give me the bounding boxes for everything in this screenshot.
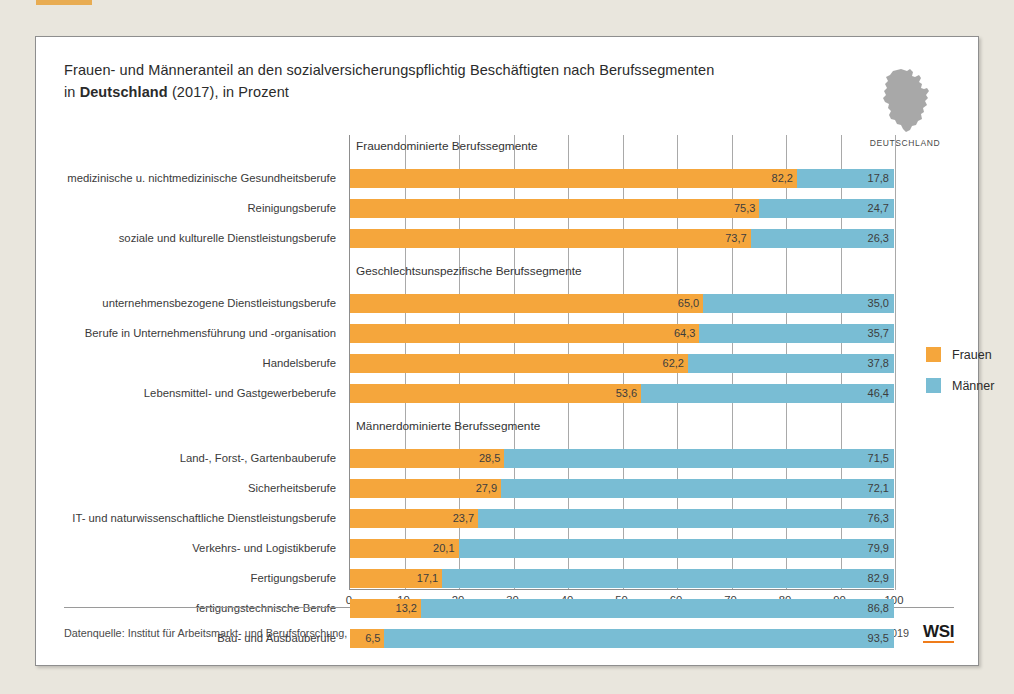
value-label-maenner: 71,5 (504, 449, 894, 468)
value-label-frauen: 23,7 (350, 509, 479, 528)
value-label-frauen: 13,2 (350, 599, 422, 618)
value-label-maenner: 76,3 (478, 509, 894, 528)
value-label-frauen: 6,5 (350, 629, 385, 648)
category-label: Handelsberufe (263, 357, 336, 370)
category-label: IT- und naturwissenschaftliche Dienstlei… (72, 512, 336, 525)
value-label-frauen: 17,1 (350, 569, 443, 588)
bar-row[interactable]: 17,182,9 (350, 569, 894, 588)
bar-row[interactable]: 73,726,3 (350, 229, 894, 248)
title-country: Deutschland (80, 84, 168, 100)
plot-wrapper: medizinische u. nichtmedizinische Gesund… (64, 135, 954, 590)
bar-row[interactable]: 28,571,5 (350, 449, 894, 468)
legend: Frauen Männer (926, 347, 1014, 409)
value-label-maenner: 35,7 (699, 324, 894, 343)
value-label-frauen: 64,3 (350, 324, 700, 343)
page-title: Frauen- und Männeranteil an den sozialve… (64, 59, 864, 104)
bar-row[interactable]: 75,324,7 (350, 199, 894, 218)
value-label-frauen: 62,2 (350, 354, 689, 373)
value-label-maenner: 79,9 (459, 539, 894, 558)
category-label: Land-, Forst-, Gartenbauberufe (180, 452, 336, 465)
value-label-maenner: 17,8 (797, 169, 894, 188)
chart-area: medizinische u. nichtmedizinische Gesund… (64, 135, 954, 595)
gridline (895, 135, 896, 590)
legend-swatch-maenner (926, 378, 941, 393)
category-labels-column: medizinische u. nichtmedizinische Gesund… (64, 135, 342, 590)
category-label: Sicherheitsberufe (248, 482, 336, 495)
value-label-maenner: 24,7 (759, 199, 894, 218)
bar-row[interactable]: 23,776,3 (350, 509, 894, 528)
title-line-2-prefix: in (64, 84, 80, 100)
header: Frauen- und Männeranteil an den sozialve… (64, 59, 954, 104)
bar-row[interactable]: 27,972,1 (350, 479, 894, 498)
value-label-maenner: 93,5 (384, 629, 894, 648)
category-label: Reinigungsberufe (247, 202, 336, 215)
value-label-maenner: 35,0 (703, 294, 894, 313)
legend-item-frauen[interactable]: Frauen (926, 347, 1014, 362)
group-header: Männerdominierte Berufssegmente (356, 419, 540, 433)
legend-swatch-frauen (926, 347, 941, 362)
category-label: unternehmensbezogene Dienstleistungsberu… (102, 297, 336, 310)
bar-row[interactable]: 6,593,5 (350, 629, 894, 648)
bar-row[interactable]: 13,286,8 (350, 599, 894, 618)
infographic-card: Frauen- und Männeranteil an den sozialve… (35, 36, 979, 666)
value-label-frauen: 20,1 (350, 539, 460, 558)
wsi-logo: WSI (923, 623, 954, 643)
bar-row[interactable]: 65,035,0 (350, 294, 894, 313)
legend-item-maenner[interactable]: Männer (926, 378, 1014, 393)
plot-region: Frauendominierte Berufssegmente82,217,87… (349, 135, 894, 590)
germany-map-icon (877, 67, 933, 135)
value-label-frauen: 73,7 (350, 229, 752, 248)
value-label-maenner: 37,8 (688, 354, 894, 373)
category-label: Fertigungsberufe (251, 572, 336, 585)
value-label-frauen: 82,2 (350, 169, 798, 188)
category-label: Lebensmittel- und Gastgewerbeberufe (144, 387, 336, 400)
x-axis-line (349, 589, 894, 590)
title-line-1: Frauen- und Männeranteil an den sozialve… (64, 62, 714, 78)
value-label-frauen: 28,5 (350, 449, 505, 468)
value-label-maenner: 82,9 (442, 569, 894, 588)
value-label-maenner: 86,8 (421, 599, 894, 618)
category-label: Verkehrs- und Logistikberufe (192, 542, 336, 555)
value-label-frauen: 75,3 (350, 199, 760, 218)
value-label-maenner: 46,4 (641, 384, 894, 403)
value-label-maenner: 26,3 (751, 229, 894, 248)
category-label: medizinische u. nichtmedizinische Gesund… (67, 172, 336, 185)
value-label-frauen: 65,0 (350, 294, 704, 313)
bar-row[interactable]: 64,335,7 (350, 324, 894, 343)
bar-row[interactable]: 82,217,8 (350, 169, 894, 188)
title-line-2-suffix: (2017), in Prozent (168, 84, 289, 100)
bar-row[interactable]: 62,237,8 (350, 354, 894, 373)
group-header: Frauendominierte Berufssegmente (356, 139, 538, 153)
bar-row[interactable]: 53,646,4 (350, 384, 894, 403)
group-header: Geschlechtsunspezifische Berufssegmente (356, 264, 582, 278)
legend-label-maenner: Männer (952, 379, 994, 393)
legend-label-frauen: Frauen (952, 348, 992, 362)
scan-artifact-mark (36, 0, 92, 5)
value-label-frauen: 27,9 (350, 479, 502, 498)
bar-row[interactable]: 20,179,9 (350, 539, 894, 558)
category-label: Berufe in Unternehmensführung und -organ… (85, 327, 336, 340)
value-label-frauen: 53,6 (350, 384, 642, 403)
value-label-maenner: 72,1 (501, 479, 894, 498)
category-label: soziale und kulturelle Dienstleistungsbe… (119, 232, 336, 245)
